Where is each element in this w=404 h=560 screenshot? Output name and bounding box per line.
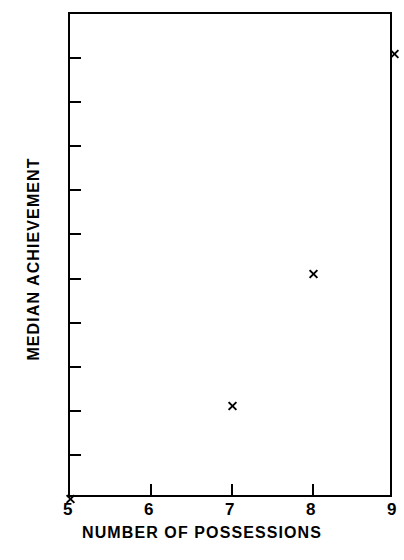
x-tick-label: 9 (387, 500, 397, 520)
y-axis-tick (70, 454, 81, 456)
x-tick-label: 6 (144, 500, 154, 520)
x-axis-tick (150, 484, 152, 495)
y-axis-tick (70, 366, 81, 368)
data-point-marker (308, 269, 319, 280)
x-tick-label: 5 (63, 500, 73, 520)
x-axis-title: NUMBER OF POSSESSIONS (0, 524, 404, 542)
x-axis-tick (231, 484, 233, 495)
y-axis-tick (70, 233, 81, 235)
chart-page: BLACK 202122232425262728293031 56789 NUM… (0, 0, 404, 560)
y-axis-tick (70, 101, 81, 103)
x-axis-tick (312, 484, 314, 495)
y-axis-tick (70, 322, 81, 324)
y-axis-tick (70, 189, 81, 191)
x-tick-label: 7 (225, 500, 235, 520)
data-point-marker (227, 401, 238, 412)
y-axis-tick (70, 57, 81, 59)
y-axis-tick (70, 410, 81, 412)
x-tick-label: 8 (306, 500, 316, 520)
y-axis-tick (70, 145, 81, 147)
y-axis-tick (70, 278, 81, 280)
plot-frame (68, 12, 392, 497)
data-point-marker (389, 48, 400, 59)
y-axis-title: MEDIAN ACHIEVEMENT (25, 109, 43, 409)
